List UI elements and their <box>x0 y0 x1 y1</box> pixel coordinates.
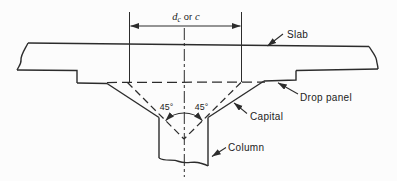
effective-capital-left-45-line <box>128 83 185 140</box>
slab-bottom-right-edge <box>296 69 378 71</box>
slab-label: Slab <box>287 29 308 40</box>
column-leader-arrow <box>212 148 226 157</box>
drop-panel-leader-arrow <box>278 83 298 94</box>
angle-label-right: 45° <box>195 102 208 112</box>
slab-bottom-left-edge <box>17 70 77 83</box>
diagram-drawing: dcorc 45° 45° Slab Drop panel Capital Co… <box>0 0 397 181</box>
dimension-label: dcorc <box>172 11 200 24</box>
slab-top-edge <box>28 43 369 47</box>
column-bottom-break-line <box>159 158 208 166</box>
capital-label: Capital <box>250 111 283 122</box>
drop-panel-label: Drop panel <box>300 92 352 103</box>
effective-capital-right-45-line <box>184 83 241 140</box>
dimension-var-dc-subscript: c <box>177 15 181 24</box>
slab-left-break-line <box>17 43 28 70</box>
dimension-var-c: c <box>195 11 200 22</box>
drop-panel-right-bottom <box>264 71 296 82</box>
flat-slab-section-diagram: dcorc 45° 45° Slab Drop panel Capital Co… <box>0 0 397 181</box>
slab-leader-arrow <box>268 34 284 46</box>
capital-left-slope <box>107 84 159 118</box>
drop-panel-bottom-hidden-line <box>107 82 265 83</box>
dimension-or-text: or <box>184 12 192 22</box>
drop-panel-left-bottom <box>77 83 107 84</box>
angle-label-left: 45° <box>160 102 173 112</box>
column-label: Column <box>228 142 264 153</box>
capital-leader-arrow <box>234 103 247 114</box>
slab-right-break-line <box>369 47 378 70</box>
